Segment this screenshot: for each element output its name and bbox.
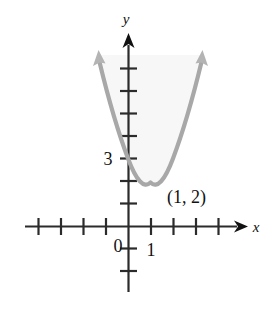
x-tick-label-1: 1 — [147, 240, 156, 260]
graph-canvas: x y 3 0 1 (1, 2) — [0, 0, 278, 320]
origin-label: 0 — [114, 236, 123, 256]
x-axis-label: x — [252, 219, 260, 235]
y-axis-label: y — [121, 11, 130, 27]
y-tick-label-3: 3 — [104, 149, 113, 169]
parabola-figure: x y 3 0 1 (1, 2) — [0, 0, 278, 320]
vertex-point-label: (1, 2) — [167, 187, 206, 208]
